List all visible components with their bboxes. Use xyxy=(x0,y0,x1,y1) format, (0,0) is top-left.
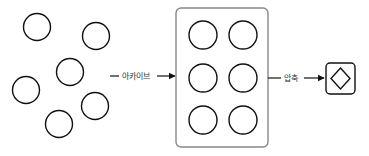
archive-compress-diagram: 아카이브 압축 xyxy=(0,0,369,156)
loose-files-group xyxy=(13,14,110,138)
archive-label: 아카이브 xyxy=(122,71,150,81)
loose-file-circle xyxy=(13,77,40,104)
loose-file-circle xyxy=(24,14,51,41)
loose-file-circle xyxy=(83,23,110,50)
compressed-archive-box xyxy=(326,63,355,94)
archive-box xyxy=(176,8,268,147)
loose-file-circle xyxy=(82,93,109,120)
compress-label: 압축 xyxy=(284,74,298,83)
archive-arrow: 아카이브 xyxy=(110,71,175,81)
loose-file-circle xyxy=(46,111,73,138)
compress-arrow: 압축 xyxy=(268,74,324,83)
loose-file-circle xyxy=(57,59,84,86)
